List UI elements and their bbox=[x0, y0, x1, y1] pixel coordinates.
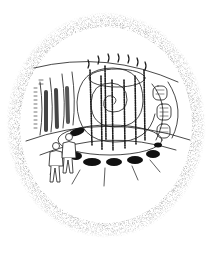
illustration bbox=[0, 0, 211, 253]
